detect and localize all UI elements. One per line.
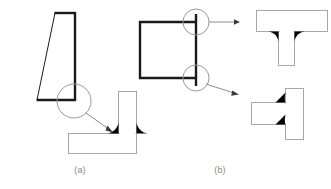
trapezoid-body — [37, 13, 75, 100]
panel-a-caption: (a) — [62, 165, 98, 175]
fillet-weld-upper-b-bottom — [276, 93, 286, 103]
tee-joint-detail-a — [69, 92, 148, 154]
inverted-tee-joint-detail-b — [257, 11, 328, 66]
leader-arrowhead-b-bottom — [231, 90, 239, 95]
figure-canvas — [0, 0, 331, 189]
detail-b-top-joint-merge — [280, 30, 294, 34]
fillet-weld-left-b-top — [269, 32, 279, 42]
box-section — [139, 14, 197, 86]
panel-a — [37, 12, 148, 154]
rotated-tee-joint-detail-b — [252, 89, 304, 140]
fillet-weld-right-b-top — [295, 32, 305, 42]
leader-arrowhead-a — [106, 126, 114, 133]
detail-b-top-horizontal-plate — [257, 11, 328, 32]
fillet-weld-right-a — [137, 123, 148, 134]
trapezoid-section — [37, 12, 76, 101]
leader-arrowhead-b-top — [234, 19, 240, 24]
leader-arrow-a — [86, 113, 113, 133]
leader-line-a — [86, 113, 110, 130]
detail-a-joint-merge — [120, 131, 136, 136]
panel-b — [139, 9, 328, 140]
panel-b-caption: (b) — [202, 165, 238, 175]
leader-arrow-b-bottom — [206, 84, 239, 96]
detail-b-top-vertical-plate — [279, 32, 295, 66]
detail-a-horizontal-plate — [69, 134, 137, 154]
detail-a-vertical-plate — [119, 92, 137, 134]
welding-detail-figure: (a) (b) — [0, 0, 331, 189]
leader-line-b-bottom — [206, 84, 234, 93]
leader-arrow-b-top — [209, 19, 240, 24]
detail-b-bottom-vertical-plate — [286, 89, 304, 140]
